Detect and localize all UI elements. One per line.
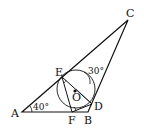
label-f: F bbox=[68, 114, 76, 127]
label-e: E bbox=[55, 66, 63, 79]
angle-arc-e bbox=[64, 80, 66, 83]
angle-label-30: 30° bbox=[88, 66, 104, 76]
label-c: C bbox=[126, 7, 134, 20]
angle-label-a: 40° bbox=[33, 102, 49, 112]
label-d: D bbox=[94, 100, 103, 113]
label-a: A bbox=[10, 107, 20, 120]
label-b: B bbox=[84, 114, 92, 127]
geometry-diagram: A B C D E F O 40° 30° bbox=[0, 0, 144, 131]
angle-arc-a bbox=[30, 106, 32, 112]
label-o: O bbox=[72, 91, 81, 104]
segment-ef bbox=[62, 77, 72, 112]
